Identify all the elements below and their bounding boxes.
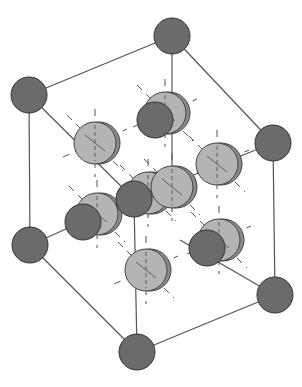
dark-atom: [137, 102, 173, 138]
corner-atom-top-left: [11, 77, 47, 113]
cell-edge: [273, 143, 275, 295]
corner-atom-top-back: [154, 18, 190, 54]
cell-edge: [29, 95, 30, 245]
atoms: [11, 18, 293, 370]
cell-edge: [172, 36, 273, 143]
crystal-lattice-diagram: [0, 0, 302, 387]
corner-atom-bottom-front: [119, 334, 155, 370]
cell-edge: [137, 295, 275, 352]
dark-atom: [65, 204, 101, 240]
cell-edge: [29, 36, 172, 95]
corner-atom-bottom-left: [12, 227, 48, 263]
corner-atom-top-front: [116, 181, 152, 217]
corner-atom-bottom-right: [257, 277, 293, 313]
dark-atom: [189, 230, 225, 266]
corner-atom-top-right: [255, 125, 291, 161]
cell-edge: [30, 245, 137, 352]
